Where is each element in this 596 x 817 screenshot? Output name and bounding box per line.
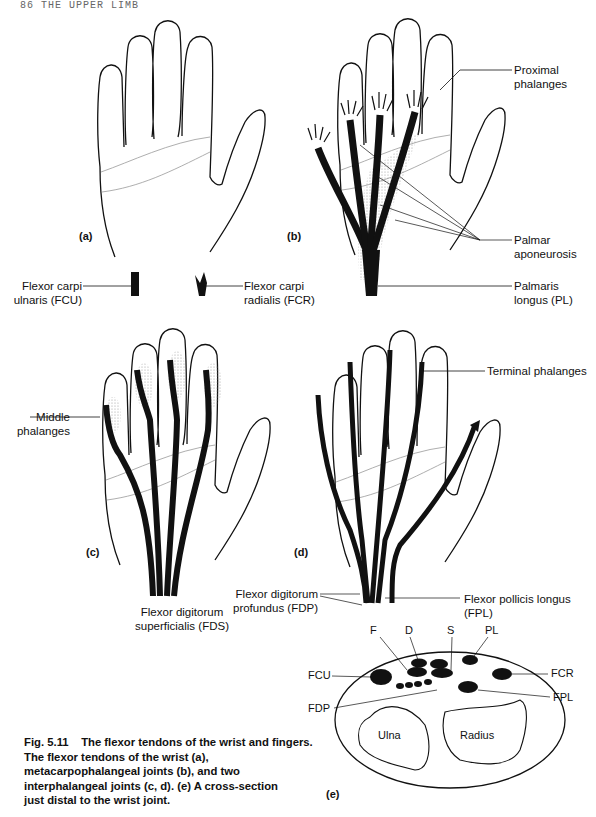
callout-fds-line2: superficialis (FDS) xyxy=(125,619,239,633)
callout-fpl-line1: Flexor pollicis longus xyxy=(464,592,571,606)
panel-label-c: (c) xyxy=(86,546,99,558)
callout-middle-phalanges: Middle phalanges xyxy=(10,410,70,438)
callout-fcu-line1: Flexor carpi xyxy=(10,279,82,293)
panel-label-a: (a) xyxy=(79,230,92,242)
callout-fpl-line2: (FPL) xyxy=(464,606,571,620)
anatomy-figure xyxy=(0,0,596,817)
cs-label-ulna: Ulna xyxy=(378,729,401,741)
callout-fcr: Flexor carpi radialis (FCR) xyxy=(244,279,315,307)
panel-label-d: (d) xyxy=(294,546,308,558)
callout-palmar-line1: Palmar xyxy=(514,233,577,247)
cs-label-fdp: FDP xyxy=(308,702,330,714)
callout-palmaris-longus: Palmaris longus (PL) xyxy=(514,279,573,307)
cs-label-fcr: FCR xyxy=(551,667,574,679)
callout-fcr-line1: Flexor carpi xyxy=(244,279,315,293)
panel-label-b: (b) xyxy=(287,230,301,242)
callout-fdp-line2: profundus (FDP) xyxy=(220,601,318,615)
caption-body: The flexor tendons of the wrist (a), met… xyxy=(24,750,294,808)
callout-middle-line2: phalanges xyxy=(10,424,70,438)
callout-palmar-line2: aponeurosis xyxy=(514,247,577,261)
cs-label-fpl: FPL xyxy=(553,691,573,703)
cs-label-fcu: FCU xyxy=(308,669,331,681)
hand-d xyxy=(333,331,500,567)
callout-proximal-phalanges: Proximal phalanges xyxy=(514,63,567,91)
callout-proximal-line1: Proximal xyxy=(514,63,567,77)
panel-label-e: (e) xyxy=(326,788,339,800)
cs-label-d: D xyxy=(405,624,413,636)
cs-label-radius: Radius xyxy=(460,729,494,741)
callout-fcu-line2: ulnaris (FCU) xyxy=(10,293,82,307)
callout-fpl: Flexor pollicis longus (FPL) xyxy=(464,592,571,620)
callout-terminal-phalanges: Terminal phalanges xyxy=(487,364,587,378)
callout-fdp: Flexor digitorum profundus (FDP) xyxy=(220,587,318,615)
cs-label-pl: PL xyxy=(485,624,498,636)
callout-proximal-line2: phalanges xyxy=(514,77,567,91)
cs-label-s: S xyxy=(447,624,454,636)
cs-label-f: F xyxy=(370,624,377,636)
callout-fcr-line2: radialis (FCR) xyxy=(244,293,315,307)
callout-fcu: Flexor carpi ulnaris (FCU) xyxy=(10,279,82,307)
hand-a xyxy=(98,21,265,257)
callout-middle-line1: Middle xyxy=(10,410,70,424)
callout-palmar-aponeurosis: Palmar aponeurosis xyxy=(514,233,577,261)
callout-fdp-line1: Flexor digitorum xyxy=(220,587,318,601)
caption-title: Fig. 5.11 The flexor tendons of the wris… xyxy=(24,735,294,750)
callout-pl-line1: Palmaris xyxy=(514,279,573,293)
callout-pl-line2: longus (PL) xyxy=(514,293,573,307)
figure-caption: Fig. 5.11 The flexor tendons of the wris… xyxy=(24,735,294,808)
